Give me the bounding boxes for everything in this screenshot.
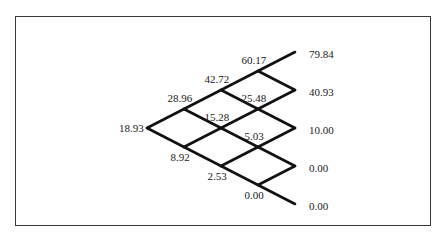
tree-edge bbox=[221, 147, 258, 166]
node-value: 2.53 bbox=[208, 171, 227, 182]
node-value: 18.93 bbox=[119, 123, 144, 134]
tree-edge bbox=[258, 71, 295, 90]
node-value: 15.28 bbox=[205, 112, 230, 123]
tree-edge bbox=[147, 109, 184, 128]
node-value: 42.72 bbox=[205, 74, 230, 85]
node-value: 0.00 bbox=[309, 163, 328, 174]
tree-edge bbox=[147, 128, 184, 147]
node-value: 0.00 bbox=[309, 201, 328, 212]
tree-edge bbox=[258, 147, 295, 166]
node-value: 25.48 bbox=[242, 93, 267, 104]
tree-edge bbox=[258, 166, 295, 185]
node-value: 60.17 bbox=[242, 55, 267, 66]
node-value: 79.84 bbox=[309, 49, 334, 60]
node-value: 10.00 bbox=[309, 125, 334, 136]
node-value: 40.93 bbox=[309, 87, 334, 98]
tree-edge bbox=[184, 128, 221, 147]
node-value: 28.96 bbox=[168, 93, 193, 104]
node-value: 0.00 bbox=[245, 190, 264, 201]
node-value: 8.92 bbox=[171, 152, 190, 163]
node-value: 5.03 bbox=[245, 131, 264, 142]
tree-edge bbox=[258, 109, 295, 128]
